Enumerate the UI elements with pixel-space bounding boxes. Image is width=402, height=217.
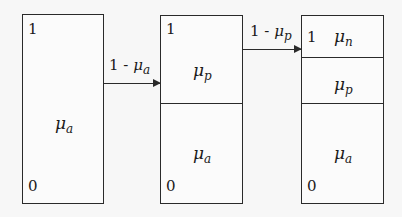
box2-region-mu-p: μp — [193, 60, 212, 83]
box2-divider — [161, 103, 242, 104]
box3-region-mu-n: μn — [334, 26, 353, 49]
arrow1-label: 1 - μa — [109, 56, 150, 77]
box2-bottom-label: 0 — [166, 177, 176, 195]
box-third: 1 μn μp μa 0 — [301, 15, 384, 204]
arrow2-label: 1 - μp — [250, 22, 292, 43]
box1-top-label: 1 — [28, 20, 38, 38]
box-second: 1 μp μa 0 — [160, 15, 243, 204]
arrow-2 — [243, 49, 301, 50]
box-initial: 1 μa 0 — [22, 14, 104, 204]
box1-region-mu-a: μa — [55, 113, 73, 136]
box3-region-mu-a: μa — [334, 143, 352, 166]
box1-bottom-label: 0 — [28, 177, 38, 195]
box2-top-label: 1 — [166, 20, 176, 38]
arrow-1 — [104, 83, 160, 84]
box3-region-mu-p: μp — [334, 74, 353, 97]
box3-top-label: 1 — [307, 28, 317, 46]
box3-divider-top — [302, 57, 383, 58]
box3-divider-bottom — [302, 103, 383, 104]
box3-bottom-label: 0 — [307, 177, 317, 195]
box2-region-mu-a: μa — [193, 143, 211, 166]
